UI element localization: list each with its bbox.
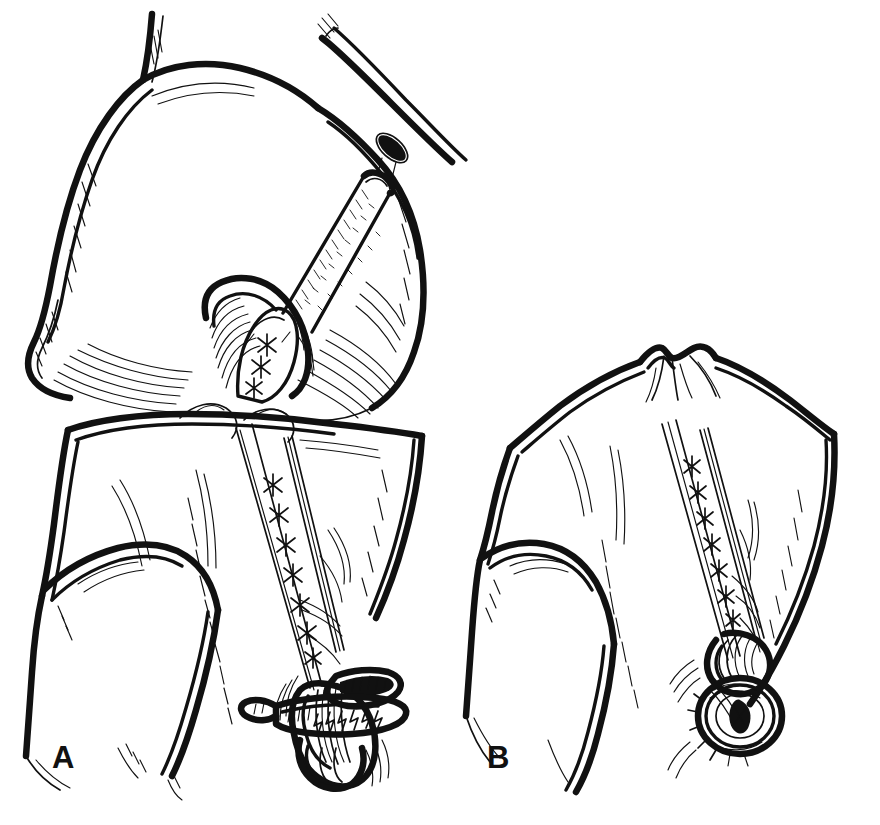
figure-canvas: A B [0, 0, 880, 825]
panel-b-label: B [487, 740, 509, 775]
panel-a-label: A [52, 740, 74, 775]
acl-reconstruction-illustration: A B [0, 0, 880, 825]
